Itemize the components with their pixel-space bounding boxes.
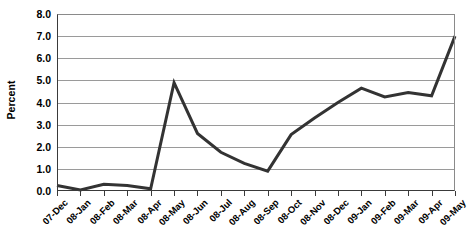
data-series-line: [57, 36, 455, 190]
x-axis-tick: [197, 191, 198, 196]
y-axis-tick-label: 5.0: [36, 74, 51, 86]
x-axis-tick-label: 08-Sep: [251, 197, 281, 227]
x-axis-tick: [127, 191, 128, 196]
x-axis-tick: [174, 191, 175, 196]
y-axis-tick-label: 3.0: [36, 119, 51, 131]
series-line: [57, 14, 455, 191]
x-axis-tick: [408, 191, 409, 196]
y-axis-title-label: Percent: [5, 80, 17, 119]
x-axis-tick: [385, 191, 386, 196]
x-axis-tick-label: 09-Feb: [368, 197, 398, 227]
x-axis-tick: [315, 191, 316, 196]
x-axis-tick-label: 08-Jun: [181, 197, 211, 227]
x-axis-tick-label: 09-Mar: [391, 197, 421, 227]
x-axis-tick: [338, 191, 339, 196]
plot-area: [57, 14, 455, 191]
x-axis-tick-label: 08-Mar: [110, 197, 140, 227]
x-axis-tick: [244, 191, 245, 196]
y-axis-tick-label: 1.0: [36, 163, 51, 175]
x-axis-tick: [361, 191, 362, 196]
y-axis-title: Percent: [0, 0, 22, 200]
y-axis-tick-label: 0.0: [36, 185, 51, 197]
x-axis-tick: [432, 191, 433, 196]
y-axis-tick-label: 6.0: [36, 52, 51, 64]
x-axis-tick: [57, 191, 58, 196]
x-axis-tick: [80, 191, 81, 196]
y-axis-tick-labels: 8.07.06.05.04.03.02.01.00.0: [22, 0, 55, 205]
y-axis-tick-label: 2.0: [36, 141, 51, 153]
x-axis-tick-label: 08-Feb: [87, 197, 117, 227]
y-axis-tick-label: 4.0: [36, 97, 51, 109]
line-chart: Percent 8.07.06.05.04.03.02.01.00.0 07-D…: [0, 0, 471, 239]
y-axis-tick-label: 7.0: [36, 30, 51, 42]
x-axis-tick-label: 08-Dec: [321, 197, 351, 227]
x-axis-tick: [455, 191, 456, 196]
x-axis-tick: [291, 191, 292, 196]
x-axis-tick: [151, 191, 152, 196]
y-axis-tick-label: 8.0: [36, 8, 51, 20]
x-axis-tick: [268, 191, 269, 196]
x-axis-tick-label: 09-Jan: [345, 197, 374, 226]
x-axis-tick-labels: 07-Dec08-Jan08-Feb08-Mar08-Apr08-May08-J…: [57, 197, 455, 239]
x-axis-tick: [221, 191, 222, 196]
x-axis-tick: [104, 191, 105, 196]
